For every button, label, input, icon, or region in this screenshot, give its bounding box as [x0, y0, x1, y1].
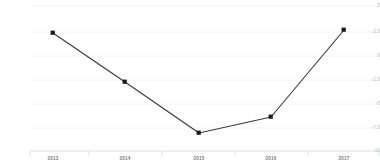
chart-plot-area [0, 0, 380, 163]
x-axis [30, 151, 380, 156]
data-point-2013[interactable] [51, 31, 55, 35]
data-point-2017[interactable] [342, 28, 346, 32]
line-chart: 5 2,5 0 -2,5 -5 -7,5 -10 2013 2014 2015 … [0, 0, 380, 163]
data-point-2014[interactable] [123, 80, 127, 84]
data-point-2016[interactable] [269, 115, 273, 119]
data-line-series-1 [53, 30, 344, 133]
gridlines [30, 6, 380, 128]
data-point-2015[interactable] [197, 131, 201, 135]
